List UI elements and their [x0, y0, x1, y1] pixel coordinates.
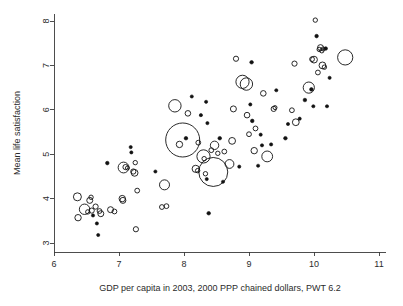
data-point [303, 82, 314, 93]
data-point [316, 70, 321, 75]
data-point [262, 151, 273, 162]
data-point [91, 214, 94, 217]
data-point [169, 100, 181, 112]
data-point [154, 170, 157, 173]
data-point [160, 205, 165, 210]
data-point [135, 188, 140, 193]
x-tick-label: 6 [51, 259, 56, 269]
data-points-layer [73, 18, 352, 237]
data-point [130, 151, 133, 154]
x-tick-label: 9 [246, 259, 251, 269]
data-point [233, 56, 238, 61]
data-point [322, 65, 326, 69]
data-point [290, 108, 295, 113]
x-tick-label: 7 [116, 259, 121, 269]
data-point [312, 105, 315, 108]
data-point [328, 76, 331, 79]
data-point [257, 164, 260, 167]
data-point [93, 204, 98, 209]
data-point [313, 18, 317, 22]
data-point [236, 75, 249, 88]
x-tick-label: 10 [309, 259, 319, 269]
data-point [133, 227, 138, 232]
scatter-plot-canvas: 345678 67891011 Mean life satisfaction G… [0, 0, 403, 306]
data-point [206, 122, 209, 125]
data-point [270, 143, 273, 146]
data-point [225, 160, 234, 169]
data-point [73, 193, 81, 201]
data-point [185, 111, 191, 117]
scatter-chart: 345678 67891011 Mean life satisfaction G… [0, 0, 403, 306]
y-tick-label: 8 [41, 18, 51, 23]
data-point [244, 112, 250, 118]
y-axis-ticks: 345678 [41, 18, 54, 245]
data-point [298, 117, 301, 120]
x-tick-label: 8 [181, 259, 186, 269]
data-point [210, 141, 218, 149]
x-axis-ticks: 67891011 [51, 252, 383, 269]
data-point [133, 160, 137, 164]
y-axis-title: Mean life satisfaction [12, 91, 22, 175]
data-point [205, 177, 208, 180]
data-point [240, 78, 252, 90]
data-point [284, 136, 288, 140]
data-point [292, 119, 299, 126]
data-point [199, 114, 202, 117]
data-point [261, 91, 267, 97]
y-tick-label: 3 [41, 240, 51, 245]
data-point [310, 88, 314, 92]
x-tick-label: 11 [374, 259, 383, 269]
data-point [324, 47, 328, 51]
data-point [247, 132, 252, 137]
data-point [275, 89, 278, 92]
data-point [97, 233, 100, 236]
data-point [160, 180, 170, 190]
data-point [87, 197, 93, 203]
data-point [131, 169, 138, 176]
data-point [190, 95, 193, 98]
data-point [75, 214, 81, 220]
data-point [260, 144, 263, 147]
data-point [249, 103, 252, 106]
data-point [218, 136, 222, 140]
data-point [184, 136, 188, 140]
data-point [106, 161, 110, 165]
data-point [207, 211, 211, 215]
data-point [338, 50, 353, 65]
data-point [259, 133, 262, 136]
data-point [325, 105, 328, 108]
y-tick-label: 6 [41, 107, 51, 112]
data-point [292, 61, 297, 66]
data-point [95, 222, 98, 225]
data-point [286, 122, 289, 125]
data-point [205, 100, 208, 103]
data-point [253, 126, 258, 131]
data-point [250, 60, 254, 64]
data-point [251, 147, 257, 153]
y-tick-label: 4 [41, 196, 51, 201]
data-point [221, 180, 224, 183]
x-axis-title: GDP per capita in 2003, 2000 PPP chained… [99, 283, 341, 293]
data-point [216, 151, 220, 155]
data-point [164, 204, 169, 209]
data-point [176, 141, 182, 147]
data-point [238, 165, 241, 168]
data-point [166, 123, 200, 157]
data-point [303, 98, 307, 102]
data-point [229, 137, 236, 144]
y-tick-label: 7 [41, 63, 51, 68]
data-point [222, 149, 227, 154]
data-point [315, 34, 319, 38]
data-point [230, 106, 236, 112]
data-point [129, 146, 132, 149]
data-point [250, 119, 254, 123]
data-point [118, 162, 129, 173]
data-point [203, 172, 207, 176]
data-point [196, 140, 201, 145]
y-tick-label: 5 [41, 152, 51, 157]
data-point [79, 204, 89, 214]
